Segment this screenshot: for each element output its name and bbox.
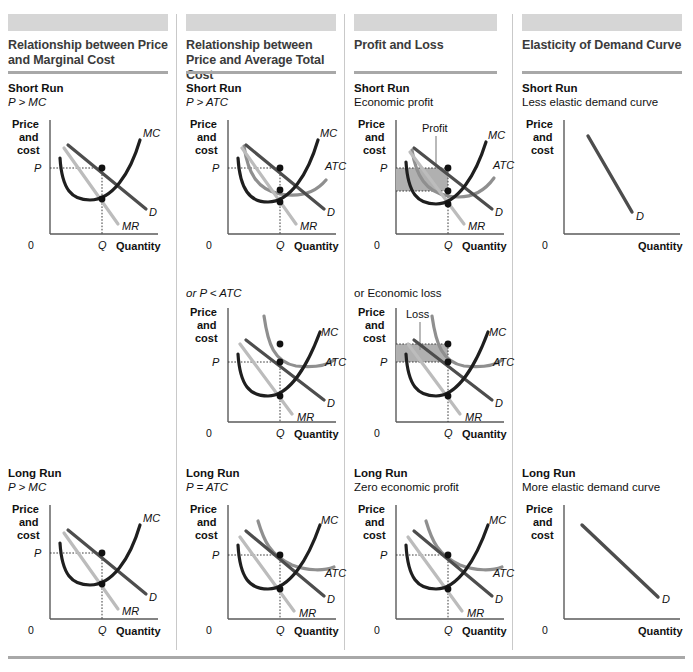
- equilibrium-dot-mc: [99, 196, 106, 203]
- y-axis-label-line3: cost: [195, 529, 218, 541]
- x-axis-label: Quantity: [462, 240, 507, 252]
- y-axis-label-line1: Price: [526, 118, 553, 130]
- x-axis-label: Quantity: [462, 625, 507, 637]
- origin-label: 0: [374, 624, 380, 636]
- header-rule-3: [354, 71, 497, 74]
- chart-pmc-long-run: Price and cost P Q 0 Quantity MC D MR: [6, 497, 174, 642]
- figure-monopolistic-competition: Relationship between Price and Marginal …: [0, 0, 693, 672]
- atc-curve-label: ATC: [324, 356, 346, 368]
- quantity-tick-label: Q: [276, 624, 285, 636]
- y-axis-label-line1: Price: [358, 118, 385, 130]
- mc-curve-label: MC: [488, 129, 505, 141]
- demand-curve-label: D: [495, 206, 503, 218]
- header-bar-3: [354, 14, 497, 31]
- caption-run-ed-long: Long Run: [522, 467, 576, 479]
- column-divider-1: [176, 14, 177, 650]
- y-axis-label-line2: and: [365, 319, 385, 331]
- mc-curve-label: MC: [143, 512, 160, 524]
- y-axis-label-line2: and: [19, 131, 39, 143]
- price-tick-label: P: [212, 356, 220, 368]
- mc-curve-label: MC: [321, 326, 338, 338]
- chart-ed-long-run: Price and cost 0 Quantity D: [520, 497, 688, 642]
- mr-curve-label: MR: [300, 220, 317, 232]
- atc-curve: [258, 521, 334, 570]
- caption-run-pl-short: Short Run: [354, 82, 410, 94]
- mc-curve-label: MC: [143, 127, 160, 139]
- y-axis-label-line1: Price: [190, 503, 217, 515]
- quantity-tick-label: Q: [276, 427, 285, 439]
- y-axis-label-line2: and: [197, 516, 217, 528]
- axes: [564, 120, 680, 234]
- header-bar-4: [522, 14, 682, 31]
- demand-curve: [588, 136, 632, 212]
- y-axis-label-line2: and: [365, 516, 385, 528]
- y-axis-label-line3: cost: [363, 332, 386, 344]
- mr-curve: [64, 533, 118, 609]
- equilibrium-dot-atc: [445, 341, 452, 348]
- demand-curve-label: D: [149, 591, 157, 603]
- caption-run-pmc-short: Short Run: [8, 82, 64, 94]
- header-bar-1: [8, 14, 168, 31]
- x-axis-label: Quantity: [116, 625, 161, 637]
- mr-curve-label: MR: [299, 607, 316, 619]
- chart-patc-long-run: Price and cost P Q 0 Quantity MC ATC D M…: [184, 497, 352, 642]
- x-axis-label: Quantity: [294, 240, 339, 252]
- caption-run-patc-short: Short Run: [186, 82, 242, 94]
- equilibrium-dot-price: [99, 550, 106, 557]
- caption-sub-patc-short: P > ATC: [186, 96, 228, 108]
- origin-label: 0: [28, 239, 34, 251]
- y-axis-label-line3: cost: [363, 529, 386, 541]
- caption-sub-ed-long: More elastic demand curve: [522, 481, 660, 493]
- column-header-profit-and-loss: Profit and Loss: [354, 38, 512, 53]
- header-bar-2: [186, 14, 336, 31]
- x-axis-label: Quantity: [638, 625, 683, 637]
- x-axis-label: Quantity: [638, 240, 683, 252]
- caption-run-pmc-long: Long Run: [8, 467, 62, 479]
- y-axis-label-line2: and: [365, 131, 385, 143]
- equilibrium-dot-price: [445, 165, 452, 172]
- demand-curve: [582, 525, 658, 597]
- origin-label: 0: [374, 427, 380, 439]
- equilibrium-dot-atc: [277, 341, 284, 348]
- equilibrium-dot-mc: [277, 586, 284, 593]
- caption-sub-ed-short: Less elastic demand curve: [522, 96, 658, 108]
- y-axis-label-line1: Price: [190, 118, 217, 130]
- price-tick-label: P: [34, 547, 42, 559]
- caption-or-pl-alt: or Economic loss: [354, 287, 442, 299]
- equilibrium-dot-mc: [445, 201, 452, 208]
- y-axis-label-line3: cost: [531, 529, 554, 541]
- atc-curve: [264, 316, 334, 367]
- quantity-tick-label: Q: [98, 239, 107, 251]
- y-axis-label-line3: cost: [531, 144, 554, 156]
- atc-curve-label: ATC: [492, 356, 514, 368]
- mr-curve-label: MR: [297, 411, 314, 423]
- mc-curve-label: MC: [489, 514, 506, 526]
- chart-patc-short-run-alt: Price and cost P Q 0 Quantity MC ATC D M…: [184, 300, 352, 445]
- equilibrium-dot-atc: [445, 188, 452, 195]
- equilibrium-dot-mc: [277, 393, 284, 400]
- equilibrium-dot-price: [277, 165, 284, 172]
- chart-pl-long-run: Price and cost P Q 0 Quantity MC ATC D M…: [352, 497, 520, 642]
- equilibrium-dot-price: [445, 359, 452, 366]
- origin-label: 0: [28, 624, 34, 636]
- column-header-elasticity-of-demand-curve: Elasticity of Demand Curve: [522, 38, 687, 53]
- y-axis-label-line1: Price: [190, 306, 217, 318]
- mc-curve-label: MC: [320, 127, 337, 139]
- demand-curve-label: D: [327, 206, 335, 218]
- mr-curve-label: MR: [468, 220, 485, 232]
- caption-sub-pmc-long: P > MC: [8, 481, 46, 493]
- equilibrium-dot-price: [99, 165, 106, 172]
- mr-curve-label: MR: [122, 220, 139, 232]
- chart-pl-short-run: Profit Price and cost P Q 0 Quantity MC …: [352, 112, 520, 257]
- atc-curve: [426, 521, 502, 570]
- y-axis-label-line1: Price: [358, 503, 385, 515]
- origin-label: 0: [206, 624, 212, 636]
- equilibrium-dot-mc: [99, 581, 106, 588]
- atc-curve-label: ATC: [492, 159, 514, 171]
- demand-curve-label: D: [327, 593, 335, 605]
- y-axis-label-line3: cost: [195, 332, 218, 344]
- caption-sub-patc-long: P = ATC: [186, 481, 228, 493]
- chart-ed-short-run: Price and cost 0 Quantity D: [520, 112, 688, 257]
- demand-curve-label: D: [327, 397, 335, 409]
- caption-run-patc-long: Long Run: [186, 467, 240, 479]
